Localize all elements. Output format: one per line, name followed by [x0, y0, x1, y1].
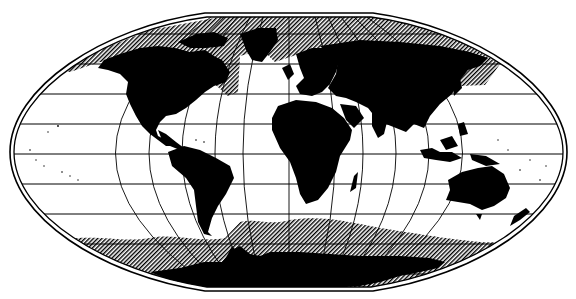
map-canvas — [0, 0, 576, 299]
world-map — [0, 0, 576, 299]
